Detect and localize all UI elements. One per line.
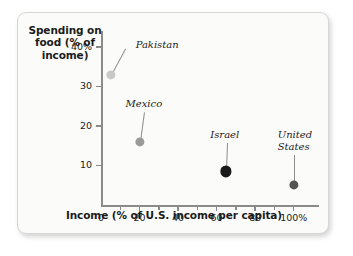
series-label-pakistan-line-0: Pakistan	[136, 39, 179, 51]
series-label-israel-line-0: Israel	[210, 129, 239, 141]
y-axis-line	[101, 31, 103, 206]
y-tick-30	[96, 86, 101, 88]
y-tick-label-40: 40%	[52, 41, 92, 52]
y-axis-title-line-0: Spending on	[24, 24, 106, 36]
series-label-pakistan: Pakistan	[136, 39, 179, 51]
y-tick-10	[96, 165, 101, 167]
x-axis-title: Income (% of U.S. income per capita)	[18, 209, 330, 221]
chart-card: Spending onfood (% ofincome) 40%302010 0…	[17, 12, 329, 234]
series-label-israel: Israel	[210, 129, 239, 141]
y-tick-40	[96, 46, 101, 48]
y-tick-20	[96, 125, 101, 127]
series-label-united-states-line-0: United	[278, 129, 312, 141]
series-label-united-states: UnitedStates	[278, 129, 312, 152]
data-point-mexico[interactable]	[135, 137, 144, 146]
data-point-pakistan[interactable]	[106, 70, 115, 79]
series-label-united-states-line-1: States	[278, 141, 312, 153]
data-point-israel[interactable]	[221, 166, 232, 177]
x-axis-line	[101, 205, 319, 207]
scatter-plot: Spending onfood (% ofincome) 40%302010 0…	[18, 13, 330, 235]
y-tick-label-20: 20	[52, 120, 92, 131]
y-tick-label-30: 30	[52, 80, 92, 91]
series-label-mexico: Mexico	[126, 98, 163, 110]
data-point-united-states[interactable]	[289, 181, 298, 190]
series-label-mexico-line-0: Mexico	[126, 98, 163, 110]
y-tick-label-10: 10	[52, 159, 92, 170]
